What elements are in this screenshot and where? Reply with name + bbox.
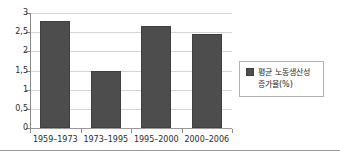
y-axis-tick-label: 2,5 xyxy=(15,27,28,36)
y-axis-tick-label: 3 xyxy=(23,8,28,17)
x-tick-mark xyxy=(182,129,183,133)
legend-entry-label: 평균 노동생산성 증가율(%) xyxy=(258,67,310,91)
legend-entry: 평균 노동생산성 증가율(%) xyxy=(246,67,319,91)
bar xyxy=(40,21,70,128)
x-axis-tick-label: 2000–2006 xyxy=(182,135,233,145)
bar xyxy=(141,26,171,128)
plot-area xyxy=(30,13,232,128)
x-tick-mark xyxy=(81,129,82,133)
x-tick-mark xyxy=(30,129,31,133)
x-tick-mark xyxy=(232,129,233,133)
x-axis-tick-label: 1973–1995 xyxy=(81,135,132,145)
y-axis-tick-label: 2 xyxy=(23,46,28,55)
x-axis-tick-label: 1959–1973 xyxy=(30,135,81,145)
y-axis-tick-label: 0,5 xyxy=(15,104,28,113)
x-axis-tick-label: 1995–2000 xyxy=(131,135,182,145)
x-tick-mark xyxy=(131,129,132,133)
y-axis-line xyxy=(30,13,31,129)
y-axis-tick-label: 1 xyxy=(23,85,28,94)
bar xyxy=(91,71,121,128)
gridline xyxy=(30,13,232,14)
y-axis-tick-label: 0 xyxy=(23,123,28,132)
bar xyxy=(192,34,222,128)
legend-color-swatch xyxy=(246,68,254,76)
y-axis-tick-label: 1,5 xyxy=(15,66,28,75)
chart-legend: 평균 노동생산성 증가율(%) xyxy=(239,61,324,97)
bottom-horizontal-rule xyxy=(0,150,340,151)
chart-figure: 평균 노동생산성 증가율(%) 32,521,510,501959–197319… xyxy=(0,0,340,159)
